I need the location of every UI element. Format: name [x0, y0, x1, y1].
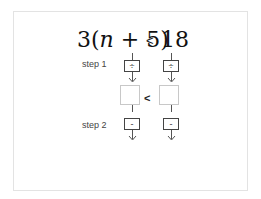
step-2-label: step 2 — [82, 120, 107, 130]
arrow-down-icon — [167, 135, 176, 141]
step-2-left-operation[interactable]: - — [124, 118, 140, 130]
step-1-label: step 1 — [82, 59, 107, 69]
inequality-lhs: 3(n + 5) — [77, 28, 169, 52]
inequality-expression: 3(n + 5) < 18 — [0, 28, 261, 52]
step-1-right-operation[interactable]: ÷ — [163, 60, 179, 72]
connector-line — [132, 105, 133, 112]
arrow-down-icon — [167, 77, 176, 83]
inequality-relation: < — [146, 34, 154, 48]
arrow-down-icon — [128, 135, 137, 141]
step-2-right-operation[interactable]: - — [163, 118, 179, 130]
connector-line — [171, 105, 172, 112]
arrow-down-icon — [128, 77, 137, 83]
intermediate-relation: < — [144, 92, 150, 104]
intermediate-left-input[interactable] — [120, 85, 140, 105]
intermediate-right-input[interactable] — [159, 85, 179, 105]
inequality-rhs: 18 — [161, 28, 189, 52]
step-1-left-operation[interactable]: ÷ — [124, 60, 140, 72]
